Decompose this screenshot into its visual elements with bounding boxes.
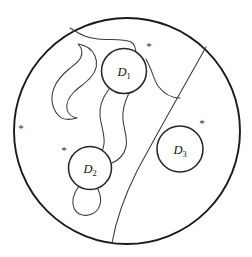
subdomain-d3-label-subscript: 3: [182, 150, 186, 159]
subdomain-d3-label-letter: D: [172, 143, 182, 157]
subdomain-d1-label-subscript: 1: [126, 72, 130, 81]
mark-left-asterisk: *: [18, 122, 24, 134]
mark-near-d2-asterisk: *: [61, 144, 67, 156]
mark-near-d1-asterisk: *: [146, 40, 152, 52]
figure-container: D1 D2 D3 ****: [0, 0, 252, 257]
mark-near-d3-asterisk: *: [199, 117, 205, 129]
math-diagram: D1 D2 D3 ****: [0, 0, 252, 257]
subdomain-d2-label-letter: D: [82, 162, 92, 176]
subdomain-d2-label-subscript: 2: [92, 169, 96, 178]
subdomain-d1-label-letter: D: [116, 65, 126, 79]
